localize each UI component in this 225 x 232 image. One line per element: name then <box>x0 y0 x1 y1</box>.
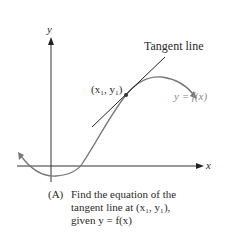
caption-line-2: tangent line at (x₁, y₁), <box>71 201 221 214</box>
caption-line-1: Find the equation of the <box>71 188 221 201</box>
y-axis-arrow-icon <box>48 37 54 45</box>
x-axis-arrow-icon <box>196 163 204 169</box>
caption-line-3: given y = f(x) <box>71 214 221 227</box>
y-axis-label: y <box>47 24 52 35</box>
function-label: y = f(x) <box>174 91 207 102</box>
point-label: (x₁, y₁) <box>91 84 123 95</box>
caption-tag: (A) <box>48 188 63 201</box>
x-axis-label: x <box>206 160 211 171</box>
tangent-line-label: Tangent line <box>144 40 203 52</box>
tangent-point <box>124 93 128 97</box>
